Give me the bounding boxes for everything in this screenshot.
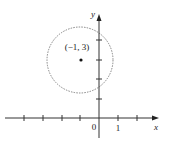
x-axis-arrow-icon [152,116,159,121]
center-label: (−1, 3) [65,42,90,52]
x-tick-label-1: 1 [116,123,121,133]
x-axis-label: x [153,122,158,132]
graph-svg: (−1, 3) y x 0 1 [0,0,177,143]
center-point [79,58,82,61]
y-axis-arrow-icon [97,14,102,21]
y-axis-label: y [90,9,95,19]
origin-label: 0 [92,122,97,132]
coordinate-plane: (−1, 3) y x 0 1 [0,0,177,143]
